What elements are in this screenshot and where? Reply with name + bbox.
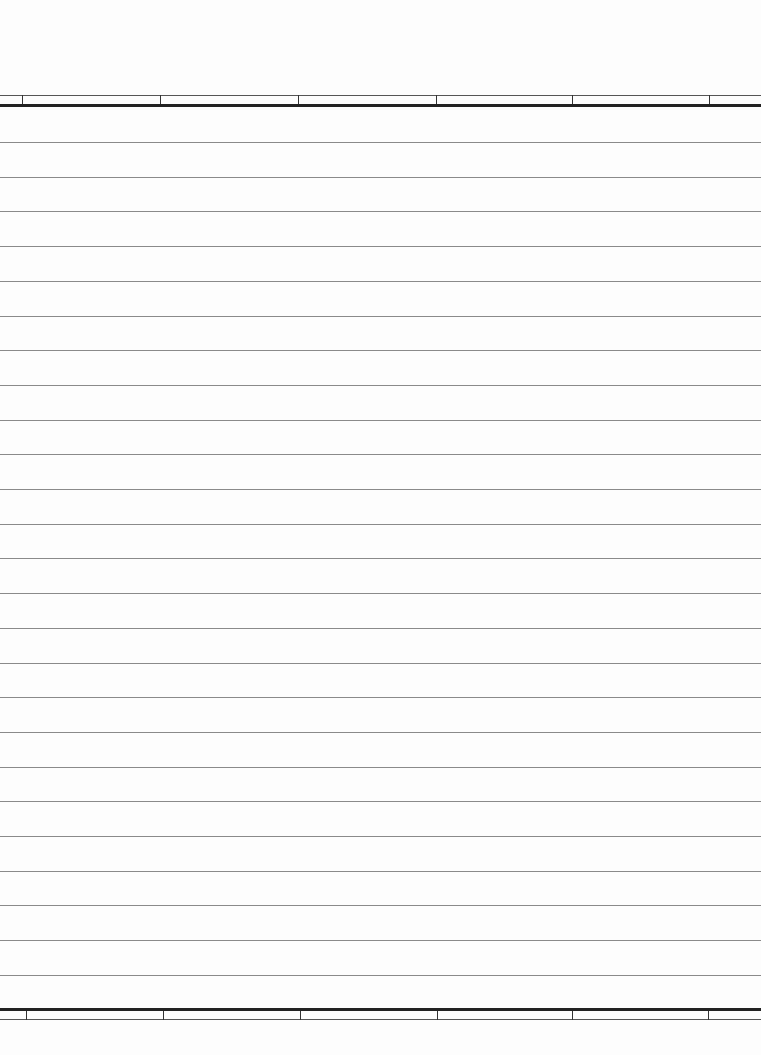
ruled-line	[0, 663, 761, 664]
ruled-line	[0, 593, 761, 594]
ruled-line	[0, 871, 761, 872]
ruled-line	[0, 905, 761, 906]
ruled-line	[0, 940, 761, 941]
ruled-line	[0, 628, 761, 629]
ruled-line	[0, 316, 761, 317]
header-divider	[160, 95, 161, 104]
ruled-line	[0, 489, 761, 490]
ruled-line	[0, 246, 761, 247]
footer-divider	[572, 1011, 573, 1020]
ruled-line	[0, 350, 761, 351]
ruled-line	[0, 836, 761, 837]
footer-divider	[300, 1011, 301, 1020]
ruled-line	[0, 558, 761, 559]
footer-divider	[26, 1011, 27, 1020]
ruled-line	[0, 975, 761, 976]
ruled-line	[0, 767, 761, 768]
ruled-line	[0, 697, 761, 698]
footer-thin-line	[0, 1019, 761, 1020]
footer-divider	[437, 1011, 438, 1020]
ruled-line	[0, 524, 761, 525]
ruled-line	[0, 454, 761, 455]
header-divider	[572, 95, 573, 104]
ruled-line	[0, 177, 761, 178]
header-divider	[709, 95, 710, 104]
header-divider	[436, 95, 437, 104]
header-divider	[298, 95, 299, 104]
footer-divider	[708, 1011, 709, 1020]
footer-thick-line	[0, 1008, 761, 1011]
ruled-line	[0, 142, 761, 143]
header-divider	[22, 95, 23, 104]
ruled-line	[0, 732, 761, 733]
header-thin-line	[0, 95, 761, 96]
ruled-line	[0, 801, 761, 802]
footer-divider	[163, 1011, 164, 1020]
ruled-line	[0, 211, 761, 212]
header-thick-line	[0, 104, 761, 107]
ruled-line	[0, 385, 761, 386]
ruled-line	[0, 420, 761, 421]
ruled-line	[0, 281, 761, 282]
